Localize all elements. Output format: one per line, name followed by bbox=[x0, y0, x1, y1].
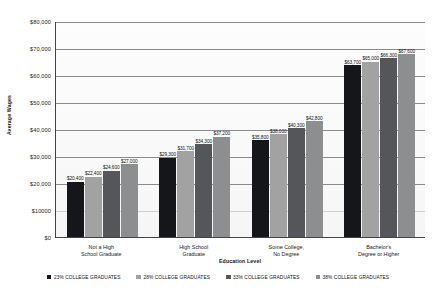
bar-slot: $34,300 bbox=[195, 22, 212, 237]
bar-group: $20,400$22,400$24,600$27,000 bbox=[56, 22, 149, 237]
bar[interactable]: $20,400 bbox=[67, 182, 84, 237]
plot-area: $20,400$22,400$24,600$27,000$29,300$31,7… bbox=[55, 22, 425, 238]
bar-slot: $20,400 bbox=[67, 22, 84, 237]
bar-value-label: $66,300 bbox=[380, 53, 397, 58]
bar-slot: $37,200 bbox=[213, 22, 230, 237]
bar[interactable]: $63,700 bbox=[344, 65, 361, 237]
bar-value-label: $63,700 bbox=[344, 60, 361, 65]
x-axis-category-line: Not a High bbox=[55, 244, 148, 251]
bar-value-label: $20,400 bbox=[67, 176, 84, 181]
y-axis-tick-labels: $80,000$70,000$60,000$50,000$40,000$30,0… bbox=[5, 0, 51, 293]
x-axis-category-label: Some College,No Degree bbox=[240, 244, 333, 258]
y-axis-tick-label: $40,000 bbox=[7, 127, 51, 133]
bar-slot: $29,300 bbox=[159, 22, 176, 237]
bar-value-label: $67,600 bbox=[398, 49, 415, 54]
x-axis-category-label: High SchoolGraduate bbox=[148, 244, 241, 258]
legend-item[interactable]: 38% COLLEGE GRADUATES bbox=[316, 275, 390, 280]
y-axis-tick-label: $70,000 bbox=[7, 46, 51, 52]
legend-label: 33% COLLEGE GRADUATES bbox=[233, 275, 300, 280]
bar[interactable]: $66,300 bbox=[380, 58, 397, 237]
bar-chart: Average Wages $80,000$70,000$60,000$50,0… bbox=[0, 0, 433, 293]
bar[interactable]: $31,700 bbox=[177, 151, 194, 237]
bar-value-label: $34,300 bbox=[195, 139, 212, 144]
bar-slot: $35,800 bbox=[252, 22, 269, 237]
y-axis-tick-label: $0 bbox=[7, 235, 51, 241]
bar[interactable]: $22,400 bbox=[85, 177, 102, 237]
bar-slot: $22,400 bbox=[85, 22, 102, 237]
bar-slot: $31,700 bbox=[177, 22, 194, 237]
bar-slot: $42,800 bbox=[306, 22, 323, 237]
x-axis-category-label: Bachelor'sDegree or Higher bbox=[333, 244, 426, 258]
legend-swatch-icon bbox=[316, 275, 321, 280]
bar[interactable]: $34,300 bbox=[195, 144, 212, 237]
x-axis-title: Education Level bbox=[55, 258, 425, 264]
y-axis-tick-label: $30,000 bbox=[7, 154, 51, 160]
y-axis-tick-label: $10000 bbox=[7, 208, 51, 214]
legend-swatch-icon bbox=[226, 275, 231, 280]
bar-value-label: $38,000 bbox=[270, 129, 287, 134]
bar-group: $63,700$65,000$66,300$67,600 bbox=[334, 22, 427, 237]
bar[interactable]: $27,000 bbox=[121, 164, 138, 237]
x-axis-category-label: Not a HighSchool Graduate bbox=[55, 244, 148, 258]
bar-slot: $40,300 bbox=[288, 22, 305, 237]
x-axis-category-line: Some College, bbox=[240, 244, 333, 251]
x-axis-category-line: Bachelor's bbox=[333, 244, 426, 251]
bar-slot: $27,000 bbox=[121, 22, 138, 237]
bar-groups: $20,400$22,400$24,600$27,000$29,300$31,7… bbox=[56, 22, 425, 237]
bar-slot: $67,600 bbox=[398, 22, 415, 237]
legend-item[interactable]: 33% COLLEGE GRADUATES bbox=[226, 275, 300, 280]
bar-value-label: $24,600 bbox=[103, 165, 120, 170]
bar-group: $35,800$38,000$40,300$42,800 bbox=[241, 22, 334, 237]
bar-slot: $65,000 bbox=[362, 22, 379, 237]
bar-group: $29,300$31,700$34,300$37,200 bbox=[149, 22, 242, 237]
y-axis-tick-label: $50,000 bbox=[7, 100, 51, 106]
bar-slot: $38,000 bbox=[270, 22, 287, 237]
y-axis-tick-label: $80,000 bbox=[7, 19, 51, 25]
bar-slot: $66,300 bbox=[380, 22, 397, 237]
legend-label: 23% COLLEGE GRADUATES bbox=[54, 275, 121, 280]
bar-value-label: $35,800 bbox=[252, 135, 269, 140]
chart-legend: 23% COLLEGE GRADUATES28% COLLEGE GRADUAT… bbox=[18, 271, 418, 283]
bar-slot: $24,600 bbox=[103, 22, 120, 237]
legend-item[interactable]: 28% COLLEGE GRADUATES bbox=[136, 275, 210, 280]
bar-value-label: $22,400 bbox=[85, 171, 102, 176]
legend-label: 28% COLLEGE GRADUATES bbox=[143, 275, 210, 280]
bar[interactable]: $24,600 bbox=[103, 171, 120, 237]
bar-value-label: $27,000 bbox=[121, 159, 138, 164]
y-axis-tick-label: $20,000 bbox=[7, 181, 51, 187]
bar-value-label: $29,300 bbox=[159, 152, 176, 157]
bar-value-label: $37,200 bbox=[213, 131, 230, 136]
bar[interactable]: $40,300 bbox=[288, 128, 305, 237]
bar-value-label: $40,300 bbox=[288, 123, 305, 128]
legend-item[interactable]: 23% COLLEGE GRADUATES bbox=[47, 275, 121, 280]
bar-value-label: $65,000 bbox=[362, 56, 379, 61]
y-axis-tick-label: $60,000 bbox=[7, 73, 51, 79]
legend-swatch-icon bbox=[47, 275, 52, 280]
bar[interactable]: $37,200 bbox=[213, 137, 230, 237]
legend-swatch-icon bbox=[136, 275, 141, 280]
bar[interactable]: $38,000 bbox=[270, 134, 287, 237]
bar[interactable]: $29,300 bbox=[159, 158, 176, 237]
legend-label: 38% COLLEGE GRADUATES bbox=[323, 275, 390, 280]
bar[interactable]: $67,600 bbox=[398, 54, 415, 237]
bar-slot: $63,700 bbox=[344, 22, 361, 237]
bar-value-label: $31,700 bbox=[177, 146, 194, 151]
bar[interactable]: $42,800 bbox=[306, 121, 323, 237]
bar[interactable]: $65,000 bbox=[362, 62, 379, 238]
bar-value-label: $42,800 bbox=[306, 116, 323, 121]
bar[interactable]: $35,800 bbox=[252, 140, 269, 237]
x-axis-category-line: High School bbox=[148, 244, 241, 251]
